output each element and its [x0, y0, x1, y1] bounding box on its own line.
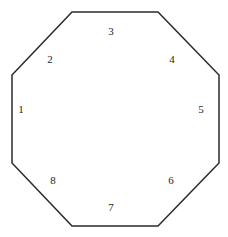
octagon-side-label-2: 2 [47, 54, 53, 65]
octagon-side-label-3: 3 [108, 26, 114, 37]
octagon-outline [12, 12, 219, 226]
octagon-side-label-8: 8 [50, 175, 56, 186]
octagon-side-label-4: 4 [169, 54, 175, 65]
octagon-figure: 1 2 3 4 5 6 7 8 [0, 0, 228, 237]
octagon-side-label-5: 5 [198, 104, 204, 115]
octagon-side-label-7: 7 [108, 202, 114, 213]
octagon-side-label-6: 6 [168, 175, 174, 186]
octagon-side-label-1: 1 [18, 104, 24, 115]
